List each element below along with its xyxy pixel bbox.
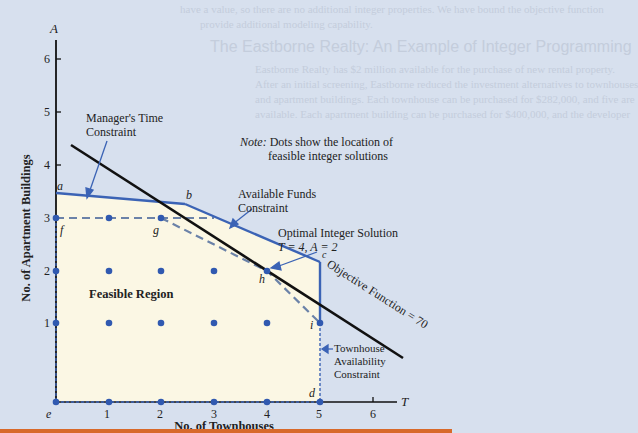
townhouse-label: Constraint bbox=[334, 368, 380, 380]
note-label: Note: Dots show the location of bbox=[239, 135, 393, 149]
page-bottom-bar bbox=[0, 429, 452, 433]
svg-text:2: 2 bbox=[44, 264, 50, 278]
note-label: feasible integer solutions bbox=[268, 149, 388, 163]
svg-text:6: 6 bbox=[370, 407, 376, 421]
point-d-label: d bbox=[309, 386, 316, 400]
svg-text:5: 5 bbox=[44, 105, 50, 119]
point-i-label: i bbox=[310, 318, 313, 332]
townhouse-label: Availability bbox=[334, 355, 386, 367]
svg-text:1: 1 bbox=[44, 316, 50, 330]
point-e-label: e bbox=[46, 407, 52, 421]
point-g-label: g bbox=[153, 223, 159, 237]
managers-time-label: Constraint bbox=[86, 125, 137, 139]
svg-text:3: 3 bbox=[44, 211, 50, 225]
svg-text:5: 5 bbox=[316, 407, 322, 421]
optimal-label: T = 4, A = 2 bbox=[278, 240, 338, 254]
managers-time-label: Manager's Time bbox=[86, 111, 163, 125]
point-h-label: h bbox=[259, 272, 265, 286]
point-b-label: b bbox=[186, 188, 192, 202]
svg-text:2: 2 bbox=[157, 407, 163, 421]
svg-text:6: 6 bbox=[44, 52, 50, 66]
y-axis-title: No. of Apartment Buildings bbox=[19, 154, 33, 301]
townhouse-label: Townhouse bbox=[334, 342, 385, 354]
svg-text:1: 1 bbox=[104, 407, 110, 421]
x-axis-letter: T bbox=[401, 394, 409, 409]
objective-function-label: Objective Function = 70 bbox=[324, 257, 430, 332]
svg-text:4: 4 bbox=[44, 158, 50, 172]
funds-label: Constraint bbox=[238, 201, 289, 215]
optimal-label: Optimal Integer Solution bbox=[278, 226, 398, 240]
funds-label: Available Funds bbox=[238, 187, 316, 201]
y-axis-letter: A bbox=[49, 21, 58, 36]
y-tick-labels: 1 2 3 4 5 6 bbox=[44, 52, 50, 330]
point-a-label: a bbox=[57, 179, 63, 193]
feasible-region-label: Feasible Region bbox=[89, 287, 173, 301]
